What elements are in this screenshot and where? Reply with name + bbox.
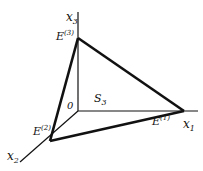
- label-e2: E(2): [32, 124, 51, 138]
- edge-e3-e2: [50, 38, 78, 141]
- label-x1: x1: [183, 117, 195, 133]
- label-e1: E(1): [151, 114, 170, 128]
- label-simplex: S3: [94, 92, 107, 107]
- label-x2: x2: [7, 149, 19, 165]
- label-origin: 0: [67, 100, 74, 111]
- label-e3: E(3): [55, 29, 74, 43]
- label-x3: x3: [66, 10, 78, 26]
- simplex-diagram: x3 x1 x2 0 E(3) E(1) E(2) S3: [0, 0, 203, 171]
